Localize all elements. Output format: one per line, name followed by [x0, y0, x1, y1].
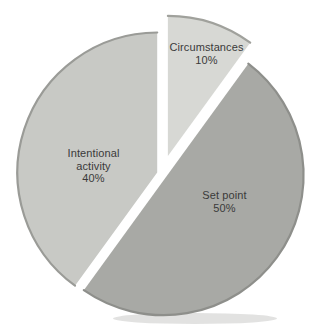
- pie-shadow: [113, 313, 277, 324]
- pie-chart-figure: Circumstances10% Set point50% Intentiona…: [0, 0, 320, 335]
- pie-chart: [0, 0, 320, 335]
